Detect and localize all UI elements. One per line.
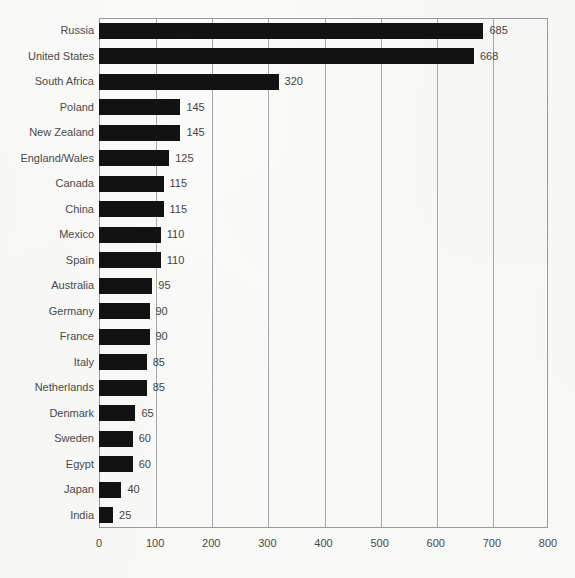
category-label-denmark: Denmark xyxy=(0,401,94,427)
bar-row[interactable]: 110 xyxy=(99,222,548,248)
bar-value-label: 145 xyxy=(186,99,204,116)
bar-row[interactable]: 60 xyxy=(99,426,548,452)
category-label-sweden: Sweden xyxy=(0,426,94,452)
bar-germany[interactable] xyxy=(99,303,150,319)
bar-value-label: 65 xyxy=(141,405,153,422)
x-tick-label-0: 0 xyxy=(96,536,102,550)
bar-row[interactable]: 85 xyxy=(99,375,548,401)
category-label-australia: Australia xyxy=(0,273,94,299)
bar-united-states[interactable] xyxy=(99,48,474,64)
x-tick-label-100: 100 xyxy=(146,536,164,550)
bar-value-label: 125 xyxy=(175,150,193,167)
bar-spain[interactable] xyxy=(99,252,161,268)
bar-value-label: 145 xyxy=(186,124,204,141)
x-tick-label-300: 300 xyxy=(258,536,276,550)
bar-row[interactable]: 320 xyxy=(99,69,548,95)
bar-value-label: 40 xyxy=(127,481,139,498)
bar-netherlands[interactable] xyxy=(99,380,147,396)
bar-row[interactable]: 60 xyxy=(99,452,548,478)
category-label-united-states: United States xyxy=(0,44,94,70)
bar-value-label: 115 xyxy=(170,201,188,218)
bar-value-label: 685 xyxy=(489,22,507,39)
bar-row[interactable]: 95 xyxy=(99,273,548,299)
bar-new-zealand[interactable] xyxy=(99,125,180,141)
x-tick-label-500: 500 xyxy=(370,536,388,550)
bar-row[interactable]: 65 xyxy=(99,401,548,427)
category-label-japan: Japan xyxy=(0,477,94,503)
category-label-egypt: Egypt xyxy=(0,452,94,478)
category-label-china: China xyxy=(0,197,94,223)
bar-canada[interactable] xyxy=(99,176,164,192)
category-label-france: France xyxy=(0,324,94,350)
bar-row[interactable]: 85 xyxy=(99,350,548,376)
category-label-mexico: Mexico xyxy=(0,222,94,248)
category-label-canada: Canada xyxy=(0,171,94,197)
bar-rows-layer: 6856683201451451251151151101109590908585… xyxy=(99,18,548,528)
bar-chart-figure: 6856683201451451251151151101109590908585… xyxy=(0,0,575,578)
x-tick-label-800: 800 xyxy=(539,536,557,550)
bar-row[interactable]: 40 xyxy=(99,477,548,503)
bar-row[interactable]: 145 xyxy=(99,120,548,146)
bar-value-label: 95 xyxy=(158,277,170,294)
bar-denmark[interactable] xyxy=(99,405,135,421)
bar-russia[interactable] xyxy=(99,23,483,39)
bar-japan[interactable] xyxy=(99,482,121,498)
bar-value-label: 60 xyxy=(139,456,151,473)
bar-egypt[interactable] xyxy=(99,456,133,472)
x-tick-label-400: 400 xyxy=(314,536,332,550)
x-tick-label-200: 200 xyxy=(202,536,220,550)
bar-row[interactable]: 145 xyxy=(99,95,548,121)
bar-value-label: 85 xyxy=(153,354,165,371)
bar-value-label: 85 xyxy=(153,379,165,396)
category-label-india: India xyxy=(0,503,94,529)
bar-value-label: 668 xyxy=(480,48,498,65)
category-label-spain: Spain xyxy=(0,248,94,274)
bar-row[interactable]: 115 xyxy=(99,171,548,197)
category-label-new-zealand: New Zealand xyxy=(0,120,94,146)
bar-sweden[interactable] xyxy=(99,431,133,447)
category-label-russia: Russia xyxy=(0,18,94,44)
bar-row[interactable]: 110 xyxy=(99,248,548,274)
bar-row[interactable]: 25 xyxy=(99,503,548,529)
bar-france[interactable] xyxy=(99,329,150,345)
bar-india[interactable] xyxy=(99,507,113,523)
x-tick-label-600: 600 xyxy=(427,536,445,550)
bar-row[interactable]: 685 xyxy=(99,18,548,44)
bar-value-label: 320 xyxy=(285,73,303,90)
bar-row[interactable]: 90 xyxy=(99,324,548,350)
category-label-italy: Italy xyxy=(0,350,94,376)
bar-row[interactable]: 115 xyxy=(99,197,548,223)
category-label-england-wales: England/Wales xyxy=(0,146,94,172)
x-tick-label-700: 700 xyxy=(483,536,501,550)
category-label-germany: Germany xyxy=(0,299,94,325)
bar-mexico[interactable] xyxy=(99,227,161,243)
bar-value-label: 115 xyxy=(170,175,188,192)
bar-row[interactable]: 125 xyxy=(99,146,548,172)
bar-value-label: 90 xyxy=(156,328,168,345)
bar-value-label: 60 xyxy=(139,430,151,447)
category-label-south-africa: South Africa xyxy=(0,69,94,95)
bar-row[interactable]: 668 xyxy=(99,44,548,70)
bar-value-label: 25 xyxy=(119,507,131,524)
bar-value-label: 110 xyxy=(167,252,185,269)
bar-value-label: 110 xyxy=(167,226,185,243)
bar-south-africa[interactable] xyxy=(99,74,279,90)
bar-row[interactable]: 90 xyxy=(99,299,548,325)
category-label-netherlands: Netherlands xyxy=(0,375,94,401)
bar-value-label: 90 xyxy=(156,303,168,320)
bar-china[interactable] xyxy=(99,201,164,217)
category-label-poland: Poland xyxy=(0,95,94,121)
bar-poland[interactable] xyxy=(99,99,180,115)
bar-italy[interactable] xyxy=(99,354,147,370)
bar-england-wales[interactable] xyxy=(99,150,169,166)
bar-australia[interactable] xyxy=(99,278,152,294)
